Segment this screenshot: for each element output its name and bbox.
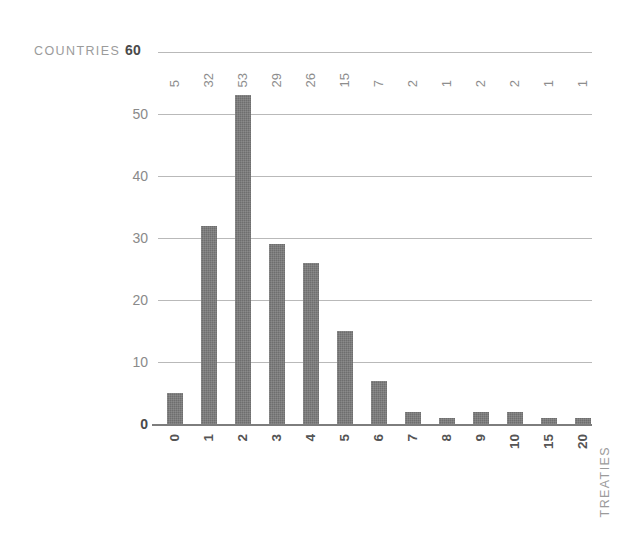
- bar-slot: [464, 52, 498, 424]
- bar-slot: [498, 52, 532, 424]
- bar-value-label-slot: 2: [396, 56, 430, 90]
- x-axis-tick-label-slot: 20: [566, 434, 600, 474]
- x-axis-tick-label: 5: [328, 434, 362, 442]
- bar: [439, 418, 455, 424]
- bar-value-label-slot: 26: [294, 56, 328, 90]
- bar: [371, 381, 387, 424]
- x-axis-baseline: [152, 424, 592, 426]
- bar-value-label-slot: 1: [566, 56, 600, 90]
- y-axis-tick-labels: 01020304050: [0, 0, 148, 536]
- bar-value-label: 1: [532, 80, 566, 87]
- bar-slot: [158, 52, 192, 424]
- bar: [167, 393, 183, 424]
- bar-slot: [260, 52, 294, 424]
- y-axis-tick-label: 10: [0, 355, 148, 369]
- bar-slot: [362, 52, 396, 424]
- x-axis-tick-label-slot: 0: [158, 434, 192, 474]
- x-axis-tick-label: 1: [192, 434, 226, 442]
- x-axis-tick-label: 10: [498, 434, 532, 449]
- bar-series: [158, 52, 592, 424]
- bar-value-label: 7: [362, 80, 396, 87]
- bar-slot: [328, 52, 362, 424]
- plot-area: [158, 52, 592, 424]
- bar-value-label: 2: [464, 80, 498, 87]
- x-axis-tick-label-slot: 3: [260, 434, 294, 474]
- bar-value-label: 2: [498, 80, 532, 87]
- y-axis-tick-label: 20: [0, 293, 148, 307]
- bar-value-label: 29: [260, 73, 294, 87]
- bar-value-label-slot: 32: [192, 56, 226, 90]
- y-axis-tick-label: 30: [0, 231, 148, 245]
- x-axis-tick-label: 4: [294, 434, 328, 442]
- y-axis-tick-label: 0: [0, 417, 148, 431]
- x-axis-tick-label: 8: [430, 434, 464, 442]
- bar-value-label: 32: [192, 73, 226, 87]
- bar-value-label: 5: [158, 80, 192, 87]
- x-axis-tick-label: 7: [396, 434, 430, 442]
- bar: [405, 412, 421, 424]
- bar: [541, 418, 557, 424]
- bar-slot: [566, 52, 600, 424]
- bar-slot: [226, 52, 260, 424]
- x-axis-tick-label-slot: 6: [362, 434, 396, 474]
- x-axis-tick-label-slot: 7: [396, 434, 430, 474]
- x-axis-tick-label: 2: [226, 434, 260, 442]
- x-axis-tick-label-slot: 2: [226, 434, 260, 474]
- x-axis-tick-label-slot: 15: [532, 434, 566, 474]
- bar-value-label-slot: 53: [226, 56, 260, 90]
- bar-value-label: 26: [294, 73, 328, 87]
- bar: [575, 418, 591, 424]
- bar-value-label-slot: 1: [430, 56, 464, 90]
- bar-value-labels: 532532926157212211: [158, 56, 592, 90]
- bar: [201, 226, 217, 424]
- bar-value-label: 1: [430, 80, 464, 87]
- x-axis-tick-label-slot: 5: [328, 434, 362, 474]
- bar: [507, 412, 523, 424]
- x-axis-tick-label: 15: [532, 434, 566, 449]
- bar-slot: [192, 52, 226, 424]
- bar-value-label-slot: 29: [260, 56, 294, 90]
- bar: [337, 331, 353, 424]
- x-axis-tick-label-slot: 10: [498, 434, 532, 474]
- bar: [269, 244, 285, 424]
- x-axis-tick-label-slot: 4: [294, 434, 328, 474]
- bar: [235, 95, 251, 424]
- x-axis-tick-label: 0: [158, 434, 192, 442]
- x-axis-tick-label: 6: [362, 434, 396, 442]
- bar: [473, 412, 489, 424]
- bar-slot: [396, 52, 430, 424]
- bar-slot: [430, 52, 464, 424]
- bar-slot: [294, 52, 328, 424]
- bar-value-label-slot: 2: [498, 56, 532, 90]
- bar-chart: COUNTRIES 60 01020304050 532532926157212…: [0, 0, 640, 536]
- x-axis-tick-label-slot: 9: [464, 434, 498, 474]
- x-axis-tick-label: 20: [566, 434, 600, 449]
- bar-value-label-slot: 1: [532, 56, 566, 90]
- bar-value-label-slot: 7: [362, 56, 396, 90]
- x-axis-tick-label: 3: [260, 434, 294, 442]
- bar-value-label-slot: 15: [328, 56, 362, 90]
- bar-value-label: 1: [566, 80, 600, 87]
- bar-value-label: 2: [396, 80, 430, 87]
- bar-value-label: 53: [226, 73, 260, 87]
- x-axis-tick-label-slot: 8: [430, 434, 464, 474]
- y-axis-tick-label: 50: [0, 107, 148, 121]
- x-axis-tick-labels: 0123456789101520: [158, 434, 592, 474]
- bar: [303, 263, 319, 424]
- bar-value-label-slot: 2: [464, 56, 498, 90]
- x-axis-tick-label: 9: [464, 434, 498, 442]
- bar-value-label-slot: 5: [158, 56, 192, 90]
- x-axis-tick-label-slot: 1: [192, 434, 226, 474]
- y-axis-tick-label: 40: [0, 169, 148, 183]
- bar-slot: [532, 52, 566, 424]
- x-axis-title: TREATIES: [598, 446, 612, 520]
- x-axis-title-text: TREATIES: [598, 446, 612, 517]
- bar-value-label: 15: [328, 73, 362, 87]
